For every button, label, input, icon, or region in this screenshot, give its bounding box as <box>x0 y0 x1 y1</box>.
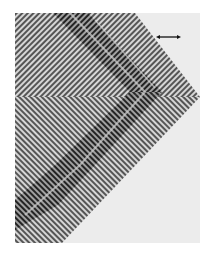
figure <box>0 0 210 255</box>
micrograph <box>0 0 210 255</box>
